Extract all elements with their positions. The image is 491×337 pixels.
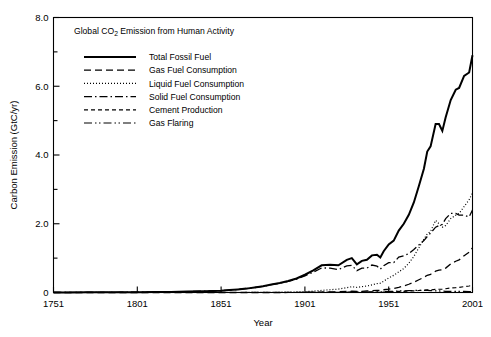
legend-label: Gas Flaring (149, 118, 194, 128)
chart-figure: 02.04.06.08.0 175118011851190119512001 Y… (0, 0, 491, 337)
plot-frame (54, 18, 473, 293)
chart-title-after: Emission from Human Activity (118, 26, 235, 36)
y-axis-tick-labels: 02.04.06.08.0 (35, 12, 48, 298)
legend-label: Gas Fuel Consumption (149, 65, 237, 75)
chart-legend: Total Fossil FuelGas Fuel ConsumptionLiq… (84, 52, 244, 128)
x-axis-title: Year (253, 317, 272, 328)
x-axis-tick-labels: 175118011851190119512001 (43, 298, 483, 309)
y-tick-label: 0 (43, 287, 48, 298)
x-tick-label: 1951 (378, 298, 399, 309)
x-tick-label: 1851 (211, 298, 232, 309)
y-axis-major-ticks (54, 18, 60, 293)
chart-canvas: 02.04.06.08.0 175118011851190119512001 Y… (0, 0, 491, 337)
series-line (54, 193, 473, 293)
y-tick-label: 2.0 (35, 218, 48, 229)
x-tick-label: 1801 (127, 298, 148, 309)
y-axis-title: Carbon Emission (GtC/yr) (8, 101, 19, 210)
data-series-group (54, 55, 473, 292)
series-line (54, 55, 473, 292)
legend-label: Cement Production (149, 105, 223, 115)
x-tick-label: 1901 (294, 298, 315, 309)
legend-label: Liquid Fuel Consumption (149, 79, 244, 89)
x-tick-label: 1751 (43, 298, 64, 309)
x-tick-label: 2001 (462, 298, 483, 309)
y-tick-label: 6.0 (35, 81, 48, 92)
legend-label: Total Fossil Fuel (149, 52, 211, 62)
legend-label: Solid Fuel Consumption (149, 92, 240, 102)
chart-title-before: Global CO (74, 26, 114, 36)
series-line (54, 210, 473, 292)
y-tick-label: 8.0 (35, 12, 48, 23)
chart-title: Global CO2 Emission from Human Activity (74, 26, 235, 37)
y-tick-label: 4.0 (35, 149, 48, 160)
